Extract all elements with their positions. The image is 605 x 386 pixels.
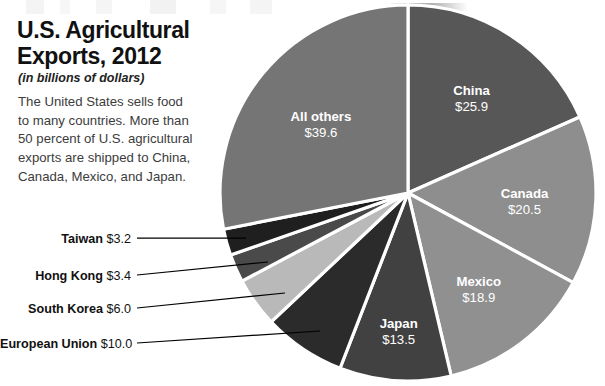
slice-label-name: Canada: [501, 186, 549, 201]
slice-label-value: $18.9: [462, 290, 495, 305]
callout-label-name: European Union: [0, 337, 101, 351]
callout-label-name: Taiwan: [61, 232, 106, 246]
infographic-canvas: U.S. Agricultural Exports, 2012 (in bill…: [0, 0, 605, 386]
callout-label-name: Hong Kong: [35, 269, 106, 283]
slice-label-value: $25.9: [455, 99, 488, 114]
slice-label-name: All others: [290, 109, 351, 124]
callout-label-value: $10.0: [101, 337, 133, 351]
slice-label-name: China: [453, 83, 490, 98]
slice-label-value: $39.6: [304, 125, 337, 140]
pie-chart: China$25.9Canada$20.5Mexico$18.9Japan$13…: [0, 0, 605, 386]
callout-label-value: $6.0: [106, 302, 131, 316]
slice-label-name: Japan: [380, 316, 418, 331]
callout-label: Taiwan $3.2: [0, 232, 131, 246]
callout-label: European Union $10.0: [0, 337, 131, 351]
slice-label-value: $13.5: [382, 332, 415, 347]
callout-label-name: South Korea: [28, 302, 106, 316]
callout-label: South Korea $6.0: [0, 302, 131, 316]
callout-label-value: $3.2: [106, 232, 131, 246]
callout-label-value: $3.4: [106, 269, 131, 283]
callout-label: Hong Kong $3.4: [0, 269, 131, 283]
slice-label-name: Mexico: [456, 274, 501, 289]
slice-label-value: $20.5: [508, 202, 541, 217]
